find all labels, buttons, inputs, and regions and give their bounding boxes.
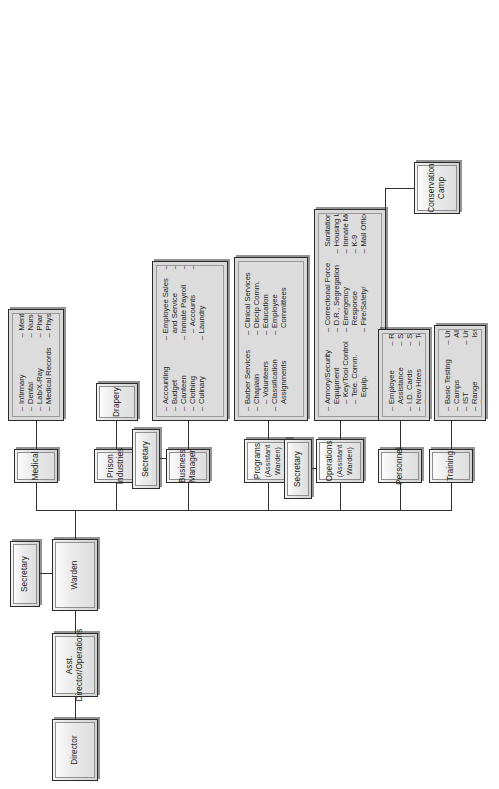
node-warden[interactable]: Warden: [52, 539, 98, 611]
list-item-label: Testing: [479, 380, 482, 404]
list-item: –Testing: [479, 354, 482, 411]
list-item-dash: –: [161, 265, 170, 269]
list-item-dash: –: [405, 404, 414, 411]
list-item: –I.D. Cards: [405, 355, 414, 411]
list-item-dash: –: [461, 404, 470, 411]
list-item: –Inmate Payroll: [179, 278, 188, 340]
node-training[interactable]: Training: [429, 449, 473, 483]
list-item-label: Fire/Safety/: [359, 286, 368, 325]
node-secretary-business-manager[interactable]: Secretary: [132, 429, 160, 489]
node-conservation-camp[interactable]: Conservation Camp: [414, 162, 460, 214]
node-operations-label: Operations: [325, 437, 335, 484]
list-item-dash: –: [35, 330, 44, 337]
node-director-inner: Director: [55, 722, 95, 778]
list-item-label: Staff Transfers: [405, 333, 414, 339]
org-chart-canvas: Director Asst. Director/Operations Warde…: [0, 0, 499, 789]
list-item-label: Assistance: [396, 367, 405, 404]
list-item-label: Armory/Security: [323, 350, 332, 404]
list-training: –Basic Testing–Camps–IST–Range–Testing–U…: [434, 325, 486, 421]
list-item-label: Clothing: [188, 376, 197, 404]
list-item-dash: –: [243, 328, 252, 335]
list-item: Sanitation: [323, 213, 332, 254]
list-item-dash: –: [170, 265, 179, 269]
node-medical-label: Medical: [31, 449, 41, 484]
list-item-dash: –: [252, 328, 261, 335]
list-item-label: Equip.: [359, 375, 368, 397]
node-operations[interactable]: Operations (Assistant Warden): [316, 439, 364, 483]
list-item-dash: –: [387, 404, 396, 411]
list-item-label: Dental: [26, 382, 35, 404]
list-item-label: Tele. Comm.: [350, 354, 359, 397]
connector-medical-list: [36, 421, 37, 449]
list-item-label: Inmate Movement: [341, 213, 350, 247]
list-item: Allowances: [452, 329, 461, 345]
list-item-label: Laundry: [197, 306, 206, 333]
node-business-manager[interactable]: Business Manager: [166, 449, 210, 483]
list-item-dash: –: [188, 326, 197, 333]
list-item-dash: –: [470, 404, 479, 411]
list-item-dash: –: [179, 265, 188, 269]
list-item-dash: –: [323, 404, 332, 411]
list-item: –Budget: [170, 349, 179, 411]
node-secretary-business-manager-label: Secretary: [141, 438, 151, 480]
list-item: –Uniform: [443, 329, 452, 345]
list-item-label: Accounts: [188, 295, 197, 326]
node-personnel-inner: Personnel: [381, 452, 419, 480]
list-item: –Canteen: [179, 349, 188, 411]
node-secretary-warden[interactable]: Secretary: [10, 541, 40, 607]
list-item-label: Volunteers: [261, 361, 270, 397]
list-item: Warehouse: [197, 265, 206, 269]
node-drapery-inner: Drapery: [99, 386, 135, 418]
list-item-dash: –: [479, 404, 482, 411]
list-item-dash: –: [350, 397, 359, 404]
node-personnel[interactable]: Personnel: [378, 449, 422, 483]
list-item-dash: –: [261, 397, 270, 404]
list-item-dash: –: [44, 330, 53, 337]
list-item: –Nurses: [26, 313, 35, 337]
list-item: –Pharmacy: [35, 313, 44, 337]
list-item: Equip.: [359, 341, 368, 411]
list-item: –Tele. Comm.: [350, 341, 359, 411]
list-item: –Maintenance: [161, 265, 170, 269]
node-asst-director-operations[interactable]: Asst. Director/Operations: [52, 633, 98, 697]
list-item-label: Allowances: [452, 329, 461, 338]
list-item: –Barber Services: [243, 344, 252, 411]
list-item: –Vehicle Fleet: [179, 265, 188, 269]
list-item-dash: –: [26, 330, 35, 337]
list-operations-items: –Armory/SecurityEquipment–Key/Tool Contr…: [323, 213, 368, 411]
list-item: –Accounting: [161, 349, 170, 411]
list-item-dash: –: [170, 404, 179, 411]
node-training-label: Training: [446, 448, 456, 484]
list-item-label: Employee Sales: [161, 278, 170, 333]
node-director[interactable]: Director: [52, 719, 98, 781]
node-business-manager-label: Business Manager: [178, 446, 198, 486]
list-item: –Key/Tool Control: [341, 341, 350, 411]
list-item: –Inmate Movement: [341, 213, 350, 254]
list-training-inner: –Basic Testing–Camps–IST–Range–Testing–U…: [438, 329, 482, 417]
list-item-label: Key/Tool Control: [341, 341, 350, 397]
list-item-label: Emergency: [341, 287, 350, 325]
list-item: –Staff Services: [396, 333, 405, 346]
list-item-dash: –: [261, 328, 270, 335]
node-drapery[interactable]: Drapery: [96, 383, 138, 421]
list-item-label: Canteen: [179, 375, 188, 404]
list-item-label: Culinary: [197, 376, 206, 404]
list-personnel-inner: –EmployeeAssistance–I.D. Cards–New Hires…: [382, 333, 426, 417]
list-item-dash: –: [197, 404, 206, 411]
list-item-label: Basic Testing: [443, 359, 452, 404]
list-programs-inner: –Barber Services–Chaplain–Volunteers–Cla…: [238, 261, 304, 417]
list-item-label: Committees: [279, 288, 288, 329]
node-secretary-operations[interactable]: Secretary: [284, 439, 312, 499]
list-item-label: and Service: [170, 293, 179, 333]
list-item-dash: –: [359, 325, 368, 332]
list-item: –Housing Units: [332, 213, 341, 254]
node-secretary-operations-label: Secretary: [293, 448, 303, 490]
list-item-label: Mail Officer: [359, 213, 368, 247]
list-item-label: Discip Comm.: [252, 281, 261, 328]
list-item-dash: –: [332, 247, 341, 254]
node-business-manager-inner: Business Manager: [169, 452, 207, 480]
node-medical[interactable]: Medical: [14, 449, 58, 483]
list-item: –Camps: [452, 354, 461, 411]
list-item-dash: –: [197, 333, 206, 340]
list-item: Response: [350, 263, 359, 333]
